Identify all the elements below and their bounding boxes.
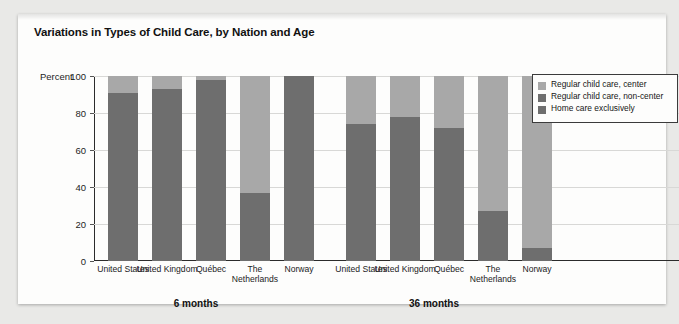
legend-swatch-icon bbox=[538, 106, 546, 114]
y-axis-tick bbox=[90, 261, 94, 262]
bar-stack[interactable] bbox=[152, 76, 182, 261]
bar-stack[interactable] bbox=[478, 76, 508, 261]
legend-label: Regular child care, non-center bbox=[551, 92, 663, 102]
bar-segment-home bbox=[108, 93, 138, 261]
y-axis-title: Percent bbox=[40, 71, 73, 82]
chart-paper-panel: Variations in Types of Child Care, by Na… bbox=[18, 14, 666, 304]
chart-legend: Regular child care, centerRegular child … bbox=[532, 74, 678, 123]
bar-segment-home bbox=[478, 211, 508, 261]
y-axis-tick bbox=[90, 150, 94, 151]
group-label: 36 months bbox=[374, 298, 494, 309]
bar-stack[interactable] bbox=[240, 76, 270, 261]
bar-segment-home bbox=[522, 248, 552, 261]
y-axis-tick bbox=[90, 76, 94, 77]
y-axis-line bbox=[94, 76, 95, 261]
y-axis-tick-label: 20 bbox=[75, 219, 86, 230]
bar-stack[interactable] bbox=[434, 76, 464, 261]
legend-label: Home care exclusively bbox=[551, 104, 635, 114]
bar-segment-center bbox=[478, 76, 508, 211]
plot-area: 020406080100 United StatesUnited Kingdom… bbox=[94, 76, 530, 261]
bar-segment-center bbox=[240, 76, 270, 193]
y-axis-tick-label: 100 bbox=[70, 71, 86, 82]
bar-segment-home bbox=[390, 117, 420, 261]
y-axis-tick bbox=[90, 113, 94, 114]
page-background: Variations in Types of Child Care, by Na… bbox=[0, 0, 679, 324]
bar-segment-center bbox=[108, 76, 138, 93]
legend-item[interactable]: Home care exclusively bbox=[538, 104, 671, 114]
bar-stack[interactable] bbox=[108, 76, 138, 261]
y-axis-tick-label: 40 bbox=[75, 182, 86, 193]
legend-swatch-icon bbox=[538, 82, 546, 90]
y-axis-tick-label: 60 bbox=[75, 145, 86, 156]
bar-segment-center bbox=[390, 76, 420, 117]
bar-stack[interactable] bbox=[284, 76, 314, 261]
y-axis-tick bbox=[90, 187, 94, 188]
bar-segment-home bbox=[196, 80, 226, 261]
bar-segment-home bbox=[434, 128, 464, 261]
bar-segment-center bbox=[434, 76, 464, 128]
bar-segment-home bbox=[152, 89, 182, 261]
group-label: 6 months bbox=[136, 298, 256, 309]
x-axis-category-label: Norway bbox=[506, 264, 568, 274]
x-axis-category-label: Norway bbox=[268, 264, 330, 274]
bar-segment-home bbox=[284, 76, 314, 261]
bar-segment-center bbox=[152, 76, 182, 89]
legend-item[interactable]: Regular child care, non-center bbox=[538, 92, 671, 102]
y-axis-tick bbox=[90, 224, 94, 225]
bar-stack[interactable] bbox=[196, 76, 226, 261]
legend-item[interactable]: Regular child care, center bbox=[538, 80, 671, 90]
bar-segment-home bbox=[346, 124, 376, 261]
bar-stack[interactable] bbox=[390, 76, 420, 261]
y-axis-tick-label: 80 bbox=[75, 108, 86, 119]
legend-label: Regular child care, center bbox=[551, 80, 646, 90]
bar-segment-center bbox=[196, 76, 226, 80]
bar-stack[interactable] bbox=[346, 76, 376, 261]
legend-swatch-icon bbox=[538, 94, 546, 102]
bar-segment-home bbox=[240, 193, 270, 261]
y-axis-tick-label: 0 bbox=[81, 256, 86, 267]
bar-segment-center bbox=[346, 76, 376, 124]
chart-title: Variations in Types of Child Care, by Na… bbox=[34, 26, 314, 38]
